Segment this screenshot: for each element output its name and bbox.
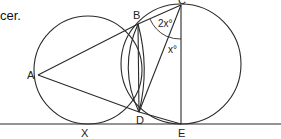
geometry-diagram: cer. 2x° x° A B C D E X — [0, 0, 281, 139]
angle-label-x: x° — [168, 44, 177, 55]
point-label-B: B — [133, 9, 140, 21]
caption-fragment: cer. — [0, 8, 21, 23]
lens-arc-left — [128, 24, 139, 112]
point-label-E: E — [178, 127, 185, 139]
point-label-A: A — [27, 69, 35, 81]
point-label-D: D — [136, 114, 144, 126]
angle-label-2x: 2x° — [158, 18, 173, 29]
segment-BD — [138, 24, 139, 112]
left-circle — [34, 16, 142, 124]
segment-DE — [139, 112, 181, 124]
point-label-X: X — [81, 127, 89, 139]
point-label-C: C — [178, 0, 186, 6]
